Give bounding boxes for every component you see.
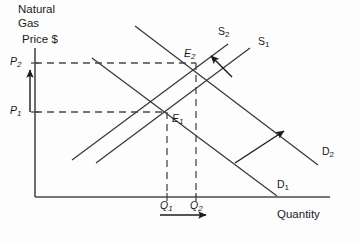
- y-axis-title: Price $: [22, 33, 58, 46]
- equilibrium-label-e1-letter: E: [172, 112, 179, 124]
- equilibrium-label-e2-subscript: 2: [191, 52, 195, 61]
- equilibrium-label-e1: E1: [172, 112, 183, 124]
- annotation-arrows: [30, 56, 284, 215]
- topic-label-line2: Gas: [18, 17, 39, 30]
- equilibrium-label-e1-subscript: 1: [179, 117, 183, 126]
- curve-label-d1-subscript: 1: [285, 183, 289, 192]
- tick-label-q2-letter: Q: [190, 199, 198, 211]
- demand-curves: [92, 26, 318, 196]
- tick-label-q1-letter: Q: [160, 199, 168, 211]
- supply-demand-diagram: Natural Gas Price $ Quantity P2 P1 Q1 Q2…: [0, 0, 360, 244]
- curve-d1: [92, 58, 277, 196]
- tick-label-p1: P1: [10, 104, 21, 116]
- topic-label-line1: Natural: [18, 3, 55, 16]
- curve-label-s2-subscript: 2: [225, 30, 229, 39]
- curve-label-d2: D2: [322, 145, 334, 157]
- curve-label-d1: D1: [277, 178, 289, 190]
- tick-label-q1: Q1: [160, 199, 173, 211]
- curve-label-d2-subscript: 2: [330, 150, 334, 159]
- supply-curves: [72, 44, 250, 163]
- guide-lines: [35, 63, 196, 197]
- curve-label-d1-letter: D: [277, 178, 285, 190]
- tick-label-p1-letter: P: [10, 104, 17, 116]
- curve-label-s2-letter: S: [218, 25, 225, 37]
- tick-label-p1-subscript: 1: [17, 109, 21, 118]
- demand-shift-arrow: [235, 131, 284, 163]
- equilibrium-label-e2-letter: E: [184, 47, 191, 59]
- tick-label-p2: P2: [10, 55, 21, 67]
- x-axis-title: Quantity: [277, 208, 320, 221]
- equilibrium-label-e2: E2: [184, 47, 195, 59]
- curve-d2: [135, 26, 318, 165]
- tick-label-q1-subscript: 1: [168, 204, 172, 213]
- curve-label-s1-letter: S: [258, 35, 265, 47]
- curve-label-s2: S2: [218, 25, 229, 37]
- tick-label-p2-subscript: 2: [17, 60, 21, 69]
- curve-label-s1: S1: [258, 35, 269, 47]
- tick-label-q2-subscript: 2: [198, 204, 202, 213]
- supply-shift-arrow: [211, 56, 232, 77]
- tick-marks: [31, 63, 196, 201]
- tick-label-p2-letter: P: [10, 55, 17, 67]
- curve-s1: [96, 48, 250, 163]
- curve-label-s1-subscript: 1: [265, 40, 269, 49]
- tick-label-q2: Q2: [190, 199, 203, 211]
- curve-label-d2-letter: D: [322, 145, 330, 157]
